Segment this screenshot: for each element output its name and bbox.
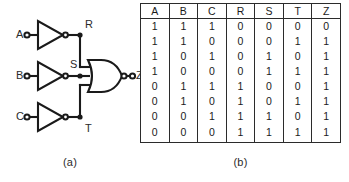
cell: 1 <box>198 19 227 35</box>
cell: 0 <box>141 79 170 94</box>
cell: 1 <box>255 109 284 124</box>
cell: 0 <box>141 125 170 143</box>
cell: 0 <box>141 109 170 124</box>
inverter-b-body <box>38 62 63 90</box>
cell: 0 <box>226 64 255 79</box>
cell: 1 <box>312 79 341 94</box>
cell: 1 <box>312 109 341 124</box>
cell: 0 <box>255 79 284 94</box>
cell: 0 <box>198 125 227 143</box>
cell: 1 <box>312 94 341 109</box>
cell: 1 <box>312 125 341 143</box>
cell: 1 <box>226 109 255 124</box>
cell: 1 <box>141 49 170 64</box>
cell: 1 <box>283 64 312 79</box>
cell: 1 <box>226 79 255 94</box>
cell: 0 <box>141 94 170 109</box>
inverter-c-body <box>38 103 63 131</box>
inverter-b-bubble <box>63 74 68 79</box>
cell: 0 <box>198 94 227 109</box>
column-header-t: T <box>283 4 312 19</box>
cell: 0 <box>226 49 255 64</box>
cell: 1 <box>141 64 170 79</box>
cell: 0 <box>169 125 198 143</box>
table-row: 0 0 1 1 1 0 1 <box>141 109 341 124</box>
node-label-t: T <box>85 122 92 134</box>
column-header-s: S <box>255 4 284 19</box>
cell: 0 <box>169 49 198 64</box>
cell: 0 <box>283 49 312 64</box>
figure-b-truth-table: A B C R S T Z 1 1 1 0 0 0 0 1 1 0 <box>140 0 349 182</box>
terminal-b <box>24 73 29 78</box>
node-label-r: R <box>85 18 93 30</box>
cell: 0 <box>312 19 341 35</box>
cell: 1 <box>255 64 284 79</box>
cell: 1 <box>169 19 198 35</box>
junction-r <box>77 32 82 37</box>
cell: 1 <box>312 64 341 79</box>
cell: 1 <box>198 49 227 64</box>
cell: 1 <box>312 34 341 49</box>
cell: 0 <box>283 19 312 35</box>
node-label-s: S <box>70 58 78 70</box>
input-label-a: A <box>16 28 24 40</box>
table-row: 0 1 0 1 0 1 1 <box>141 94 341 109</box>
table-row: 1 0 0 0 1 1 1 <box>141 64 341 79</box>
cell: 1 <box>283 94 312 109</box>
junction-s <box>77 73 82 78</box>
cell: 0 <box>255 94 284 109</box>
cell: 1 <box>198 79 227 94</box>
cell: 0 <box>283 109 312 124</box>
terminal-c <box>24 114 29 119</box>
column-header-a: A <box>141 4 170 19</box>
cell: 1 <box>226 125 255 143</box>
table-row: 1 0 1 0 1 0 1 <box>141 49 341 64</box>
column-header-b: B <box>169 4 198 19</box>
inverter-a-bubble <box>63 33 68 38</box>
input-label-c: C <box>16 110 24 122</box>
column-header-r: R <box>226 4 255 19</box>
cell: 1 <box>312 49 341 64</box>
cell: 1 <box>141 19 170 35</box>
cell: 1 <box>255 49 284 64</box>
cell: 1 <box>198 109 227 124</box>
table-row: 0 0 0 1 1 1 1 <box>141 125 341 143</box>
cell: 0 <box>255 34 284 49</box>
input-label-b: B <box>16 69 24 81</box>
cell: 0 <box>226 34 255 49</box>
cell: 1 <box>141 34 170 49</box>
cell: 0 <box>226 19 255 35</box>
terminal-z <box>130 73 135 78</box>
cell: 0 <box>169 109 198 124</box>
cell: 1 <box>283 125 312 143</box>
cell: 1 <box>255 125 284 143</box>
truth-table: A B C R S T Z 1 1 1 0 0 0 0 1 1 0 <box>140 3 341 143</box>
cell: 1 <box>283 34 312 49</box>
cell: 1 <box>169 34 198 49</box>
figure-a-circuit: A B C R S T Z (a) <box>0 0 140 182</box>
table-row: 1 1 0 0 0 1 1 <box>141 34 341 49</box>
nor-gate-bubble <box>121 73 126 78</box>
column-header-z: Z <box>312 4 341 19</box>
cell: 1 <box>226 94 255 109</box>
caption-a: (a) <box>0 156 140 168</box>
inverter-a-body <box>38 21 63 49</box>
terminal-a <box>24 32 29 37</box>
cell: 0 <box>169 64 198 79</box>
junction-t <box>77 114 82 119</box>
column-header-c: C <box>198 4 227 19</box>
nor-gate-body <box>88 60 122 92</box>
cell: 0 <box>283 79 312 94</box>
table-row: 0 1 1 1 0 0 1 <box>141 79 341 94</box>
cell: 0 <box>198 34 227 49</box>
cell: 1 <box>169 94 198 109</box>
cell: 0 <box>255 19 284 35</box>
inverter-c-bubble <box>63 115 68 120</box>
cell: 1 <box>169 79 198 94</box>
cell: 0 <box>198 64 227 79</box>
table-row: 1 1 1 0 0 0 0 <box>141 19 341 35</box>
caption-b: (b) <box>140 156 341 168</box>
table-header-row: A B C R S T Z <box>141 4 341 19</box>
